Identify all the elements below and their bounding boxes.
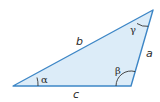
angle-label-gamma: γ	[130, 24, 136, 35]
side-label-c: c	[73, 88, 79, 101]
side-label-a: a	[146, 47, 153, 60]
triangle-diagram: b a c α β γ	[0, 0, 160, 102]
angle-label-beta: β	[115, 65, 121, 76]
angle-label-alpha: α	[41, 74, 48, 85]
triangle-shape	[13, 10, 153, 86]
side-label-b: b	[76, 35, 83, 48]
